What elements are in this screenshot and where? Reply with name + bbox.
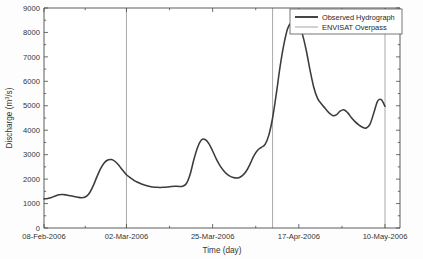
x-axis-title: Time (day) [203, 246, 242, 255]
y-tick-label-9000: 9000 [23, 4, 40, 13]
y-axis-title-base: Discharge (m [5, 100, 14, 149]
y-tick-label-1000: 1000 [23, 199, 40, 208]
plot-background [44, 8, 400, 228]
chart-legend[interactable]: Observed Hydrograph ENVISAT Overpass [290, 9, 402, 34]
x-tick-label-25-Mar-2006: 25-Mar-2006 [191, 232, 234, 241]
y-tick-label-8000: 8000 [23, 28, 40, 37]
svg-text:Discharge (m3/s): Discharge (m3/s) [4, 87, 14, 148]
discharge-time-series-chart: 0100020003000400050006000700080009000 08… [0, 0, 423, 259]
x-tick-label-10-May-2006: 10-May-2006 [363, 232, 408, 241]
x-tick-label-17-Apr-2006: 17-Apr-2006 [278, 232, 320, 241]
legend-label-observed-hydrograph: Observed Hydrograph [322, 13, 395, 22]
y-tick-label-7000: 7000 [23, 53, 40, 62]
legend-label-envisat-overpass: ENVISAT Overpass [322, 23, 387, 32]
y-axis-title-tail: /s) [5, 87, 14, 96]
y-tick-label-3000: 3000 [23, 150, 40, 159]
y-axis-title: Discharge (m3/s) [4, 87, 14, 148]
y-tick-label-6000: 6000 [23, 77, 40, 86]
x-tick-label-02-Mar-2006: 02-Mar-2006 [105, 232, 148, 241]
y-tick-label-5000: 5000 [23, 101, 40, 110]
y-tick-label-4000: 4000 [23, 126, 40, 135]
x-tick-label-08-Feb-2006: 08-Feb-2006 [22, 232, 65, 241]
y-tick-label-2000: 2000 [23, 175, 40, 184]
hydrograph-figure: 0100020003000400050006000700080009000 08… [0, 0, 423, 259]
